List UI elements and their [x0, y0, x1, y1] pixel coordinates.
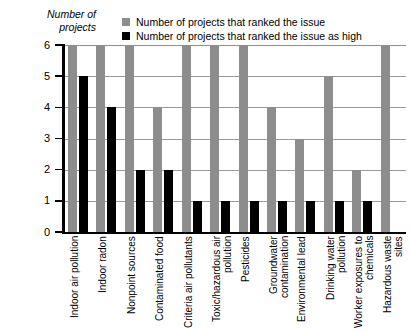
bar-high	[306, 201, 315, 232]
y-tick-label-0: 0	[0, 227, 50, 238]
bar-high	[193, 201, 202, 232]
bar-total	[153, 107, 162, 232]
legend-label-total: Number of projects that ranked the issue	[136, 17, 325, 28]
y-tick-label-4: 4	[0, 102, 50, 113]
y-tick-2	[55, 169, 63, 171]
bar-total	[182, 45, 191, 232]
x-label-10: Worker exposures to chemicals	[353, 236, 377, 331]
bar-high	[221, 201, 230, 232]
x-label-7: Groundwater contamination	[268, 236, 292, 331]
y-tick-1	[55, 200, 63, 202]
legend-label-high: Number of projects that ranked the issue…	[136, 31, 362, 42]
bar-chart: Number of projects Number of projects th…	[0, 0, 410, 333]
y-tick-label-6: 6	[0, 40, 50, 51]
x-label-11: Hazardous waste sites	[382, 236, 406, 331]
y-tick-4	[55, 107, 63, 109]
bar-total	[68, 45, 77, 232]
x-label-5: Toxic/hazardous air pollution	[211, 236, 235, 331]
y-tick-label-1: 1	[0, 195, 50, 206]
gridline-5	[65, 76, 406, 77]
y-tick-3	[55, 138, 63, 140]
bar-total	[267, 107, 276, 232]
bar-total	[96, 45, 105, 232]
y-tick-label-5: 5	[0, 71, 50, 82]
legend-swatch-black	[122, 32, 130, 40]
x-label-3: Contaminated food	[154, 236, 178, 331]
x-label-4: Criteria air pollutants	[183, 236, 207, 331]
y-tick-0	[55, 231, 63, 233]
x-label-9: Drinking water pollution	[325, 236, 349, 331]
plot-area	[65, 45, 406, 232]
legend-item-high: Number of projects that ranked the issue…	[122, 30, 362, 42]
x-label-0: Indoor air pollution	[69, 236, 93, 331]
gridline-0	[65, 232, 406, 234]
legend-swatch-gray	[122, 18, 130, 26]
y-tick-6	[55, 44, 63, 46]
bar-total	[295, 139, 304, 233]
bar-high	[136, 170, 145, 232]
bar-high	[79, 76, 88, 232]
bar-total	[210, 45, 219, 232]
y-tick-5	[55, 75, 63, 77]
legend-item-total: Number of projects that ranked the issue	[122, 16, 362, 28]
bar-total	[239, 45, 248, 232]
gridline-6	[65, 45, 406, 46]
bar-high	[164, 170, 173, 232]
y-axis-title-line1: Number of	[4, 8, 96, 21]
x-label-1: Indoor radon	[97, 236, 121, 331]
y-tick-label-2: 2	[0, 164, 50, 175]
x-label-2: Nonpoint sources	[126, 236, 150, 331]
bar-high	[363, 201, 372, 232]
bar-total	[324, 76, 333, 232]
bar-total	[352, 170, 361, 232]
bar-high	[278, 201, 287, 232]
bar-high	[250, 201, 259, 232]
x-axis-labels: Indoor air pollutionIndoor radonNonpoint…	[65, 236, 406, 333]
y-axis-title-line2: projects	[4, 21, 96, 34]
x-label-6: Pesticides	[240, 236, 264, 331]
bar-total	[381, 45, 390, 232]
y-axis-title: Number of projects	[4, 8, 96, 33]
y-tick-label-3: 3	[0, 133, 50, 144]
chart-legend: Number of projects that ranked the issue…	[122, 16, 362, 44]
bar-high	[335, 201, 344, 232]
bar-high	[107, 107, 116, 232]
x-label-8: Environmental lead	[296, 236, 320, 331]
bar-total	[125, 45, 134, 232]
